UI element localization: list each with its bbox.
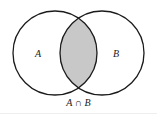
intersection-caption: A ∩ B: [0, 97, 157, 108]
divider: [0, 113, 157, 114]
set-b-label: B: [113, 48, 119, 59]
set-a-label: A: [34, 48, 42, 59]
